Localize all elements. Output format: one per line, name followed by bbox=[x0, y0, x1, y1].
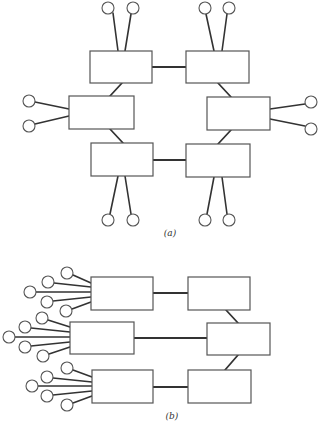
terminal-node-circle bbox=[37, 350, 49, 362]
terminal-node-circle bbox=[199, 2, 211, 14]
terminal-node-circle bbox=[24, 286, 36, 298]
terminal-node-circle bbox=[42, 276, 54, 288]
switch-box-a-tr bbox=[186, 51, 249, 83]
terminal-spoke bbox=[31, 342, 70, 346]
terminal-spoke bbox=[73, 275, 91, 283]
terminal-spoke bbox=[222, 14, 227, 51]
terminal-node-circle bbox=[23, 95, 35, 107]
terminal-spoke bbox=[113, 13, 118, 51]
terminal-node-circle bbox=[102, 2, 114, 14]
terminal-node-circle bbox=[41, 296, 53, 308]
switch-box-b-2 bbox=[188, 277, 250, 310]
terminal-spoke bbox=[53, 297, 91, 301]
terminal-spoke bbox=[35, 102, 69, 109]
terminal-spoke bbox=[270, 104, 305, 109]
link-a-tl-a-ml bbox=[110, 83, 122, 96]
terminal-node-circle bbox=[36, 312, 48, 324]
terminal-spoke bbox=[53, 378, 92, 382]
terminal-spoke bbox=[72, 302, 91, 309]
terminal-spoke bbox=[48, 320, 70, 327]
panel-a-terminal-nodes bbox=[23, 2, 317, 226]
switch-box-b-1 bbox=[91, 277, 153, 310]
terminal-node-circle bbox=[3, 331, 15, 343]
terminal-spoke bbox=[49, 347, 70, 354]
switch-box-a-br bbox=[186, 144, 250, 177]
switch-box-a-mr bbox=[207, 97, 270, 130]
switch-box-b-6 bbox=[188, 370, 251, 403]
terminal-node-circle bbox=[305, 123, 317, 135]
terminal-spoke bbox=[222, 177, 227, 214]
terminal-spoke bbox=[31, 328, 70, 332]
terminal-node-circle bbox=[19, 321, 31, 333]
switch-box-a-bl bbox=[91, 143, 153, 176]
link-b-2-b-4 bbox=[226, 310, 238, 323]
link-a-ml-a-bl bbox=[110, 129, 123, 143]
panel-b-terminal-nodes bbox=[3, 267, 73, 411]
terminal-node-circle bbox=[19, 341, 31, 353]
terminal-node-circle bbox=[127, 214, 139, 226]
terminal-spoke bbox=[110, 176, 118, 214]
terminal-spoke bbox=[270, 119, 305, 126]
terminal-spoke bbox=[54, 283, 91, 287]
switch-box-b-4 bbox=[207, 323, 270, 355]
panel-b-concentrator-network: (b) bbox=[3, 267, 270, 421]
terminal-node-circle bbox=[199, 214, 211, 226]
terminal-spoke bbox=[125, 176, 131, 214]
panel-a-switch-boxes bbox=[69, 51, 270, 177]
panel-a-caption: (a) bbox=[164, 228, 177, 238]
terminal-spoke bbox=[73, 396, 92, 403]
terminal-node-circle bbox=[61, 399, 73, 411]
terminal-node-circle bbox=[305, 96, 317, 108]
link-b-4-b-6 bbox=[225, 355, 238, 370]
terminal-spoke bbox=[73, 370, 92, 377]
terminal-spoke bbox=[125, 14, 131, 51]
terminal-node-circle bbox=[23, 120, 35, 132]
terminal-node-circle bbox=[61, 267, 73, 279]
terminal-node-circle bbox=[41, 390, 53, 402]
panel-a-ring-network: (a) bbox=[23, 2, 317, 238]
panel-b-switch-boxes bbox=[70, 277, 270, 403]
terminal-node-circle bbox=[60, 305, 72, 317]
terminal-node-circle bbox=[41, 371, 53, 383]
panel-b-caption: (b) bbox=[166, 411, 179, 421]
switch-box-b-3 bbox=[70, 322, 134, 354]
terminal-node-circle bbox=[223, 2, 235, 14]
switch-box-a-tl bbox=[90, 51, 152, 83]
terminal-node-circle bbox=[102, 214, 114, 226]
terminal-node-circle bbox=[26, 380, 38, 392]
terminal-spoke bbox=[35, 116, 69, 124]
terminal-node-circle bbox=[61, 362, 73, 374]
terminal-spoke bbox=[207, 177, 214, 214]
link-a-mr-a-br bbox=[218, 130, 231, 144]
network-topology-figure: (a) (b) bbox=[0, 0, 321, 429]
terminal-node-circle bbox=[223, 214, 235, 226]
terminal-spoke bbox=[53, 391, 92, 395]
terminal-spoke bbox=[206, 14, 214, 51]
terminal-node-circle bbox=[127, 2, 139, 14]
switch-box-b-5 bbox=[92, 370, 153, 403]
switch-box-a-ml bbox=[69, 96, 134, 129]
link-a-tr-a-mr bbox=[218, 83, 231, 97]
